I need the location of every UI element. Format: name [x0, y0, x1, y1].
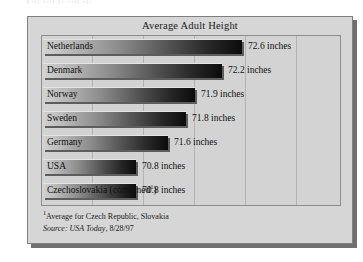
- bar-row: Germany71.6 inches: [42, 134, 340, 156]
- bar-row: Sweden71.8 inches: [42, 110, 340, 132]
- bar-value-label: 71.6 inches: [174, 136, 217, 149]
- bar-value-label: 70.8 inches: [142, 160, 185, 173]
- bar-row: USA70.8 inches: [42, 158, 340, 180]
- footnote-text: Average for Czech Republic, Slovakia: [46, 212, 169, 221]
- bar-category-label: Germany: [47, 136, 82, 149]
- bar-value-label: 72.6 inches: [248, 40, 291, 53]
- bar-value-label: 70.8 inches: [142, 184, 185, 197]
- bar-category-label: Norway: [47, 88, 78, 101]
- chart-title: Average Adult Height: [28, 20, 352, 31]
- bar-value-label: 72.2 inches: [228, 64, 271, 77]
- source-date: , 8/28/97: [105, 224, 133, 233]
- bar-category-label: Czechoslovakia (combined1): [47, 184, 157, 197]
- chart-figure: Average Adult Height Netherlands72.6 inc…: [27, 16, 353, 244]
- bar-value-label: 71.8 inches: [192, 112, 235, 125]
- source-publication: USA Today: [70, 224, 106, 233]
- footnote-line: 1Average for Czech Republic, Slovakia: [43, 211, 333, 222]
- bar-category-label: Sweden: [47, 112, 77, 125]
- bar-rows: Netherlands72.6 inchesDenmark72.2 inches…: [42, 36, 340, 205]
- source-label: Source:: [43, 224, 68, 233]
- bar-row: Netherlands72.6 inches: [42, 38, 340, 60]
- plot-area: Netherlands72.6 inchesDenmark72.2 inches…: [41, 35, 341, 206]
- source-line: Source: USA Today, 8/28/97: [43, 223, 333, 234]
- bar-category-label: USA: [47, 160, 66, 173]
- footnotes: 1Average for Czech Republic, Slovakia So…: [43, 211, 333, 234]
- scan-top-remnant: 1:|| |::| |: ::|| :|:: [25, 0, 92, 4]
- bar-row: Norway71.9 inches: [42, 86, 340, 108]
- bar-value-label: 71.9 inches: [201, 88, 244, 101]
- bar-category-label: Denmark: [47, 64, 82, 77]
- bar-row: Czechoslovakia (combined1)70.8 inches: [42, 182, 340, 204]
- bar-row: Denmark72.2 inches: [42, 62, 340, 84]
- bar-category-label: Netherlands: [47, 40, 93, 53]
